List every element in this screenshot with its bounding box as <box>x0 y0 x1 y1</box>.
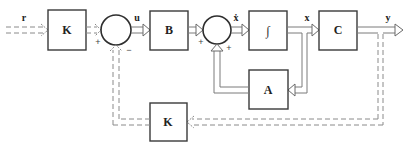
block-a: A <box>249 70 288 109</box>
sum2-plus-sign-left: + <box>198 37 203 47</box>
signal-label-r: r <box>22 12 27 23</box>
signal-label-u: u <box>134 12 140 23</box>
sum2-plus-sign-bottom: + <box>226 43 231 53</box>
k-feedback-to-sum1-path <box>110 45 150 125</box>
b-to-sum2-arrow <box>188 24 203 36</box>
x-arrow <box>287 24 319 36</box>
sum1-plus-sign: + <box>95 37 100 47</box>
input-r-arrow <box>6 24 48 36</box>
u-arrow <box>131 24 150 36</box>
y-output-arrow <box>357 24 403 36</box>
block-b: B <box>150 11 188 50</box>
block-b-label: B <box>165 23 173 37</box>
block-k-feedback: K <box>150 103 187 141</box>
signal-label-x-dot: ẋ <box>234 12 239 23</box>
summing-junction-1 <box>101 15 131 45</box>
k-to-sum1-arrow <box>86 24 101 36</box>
x-to-a-feedback-path <box>288 33 307 96</box>
sum1-minus-sign: − <box>126 45 131 55</box>
x-dot-arrow <box>231 24 249 36</box>
block-c-label: C <box>334 23 343 37</box>
block-a-label: A <box>264 83 273 97</box>
block-k-forward-label: K <box>62 23 72 37</box>
summing-junction-2 <box>203 16 231 44</box>
signal-label-x: x <box>305 12 310 23</box>
signal-label-y: y <box>386 12 391 23</box>
block-k-feedback-label: K <box>163 115 173 129</box>
block-c: C <box>319 11 357 50</box>
block-integrator: ∫ <box>249 11 287 50</box>
state-feedback-block-diagram: r K + − u B + + ẋ <box>0 0 414 149</box>
block-k-forward: K <box>48 10 86 50</box>
